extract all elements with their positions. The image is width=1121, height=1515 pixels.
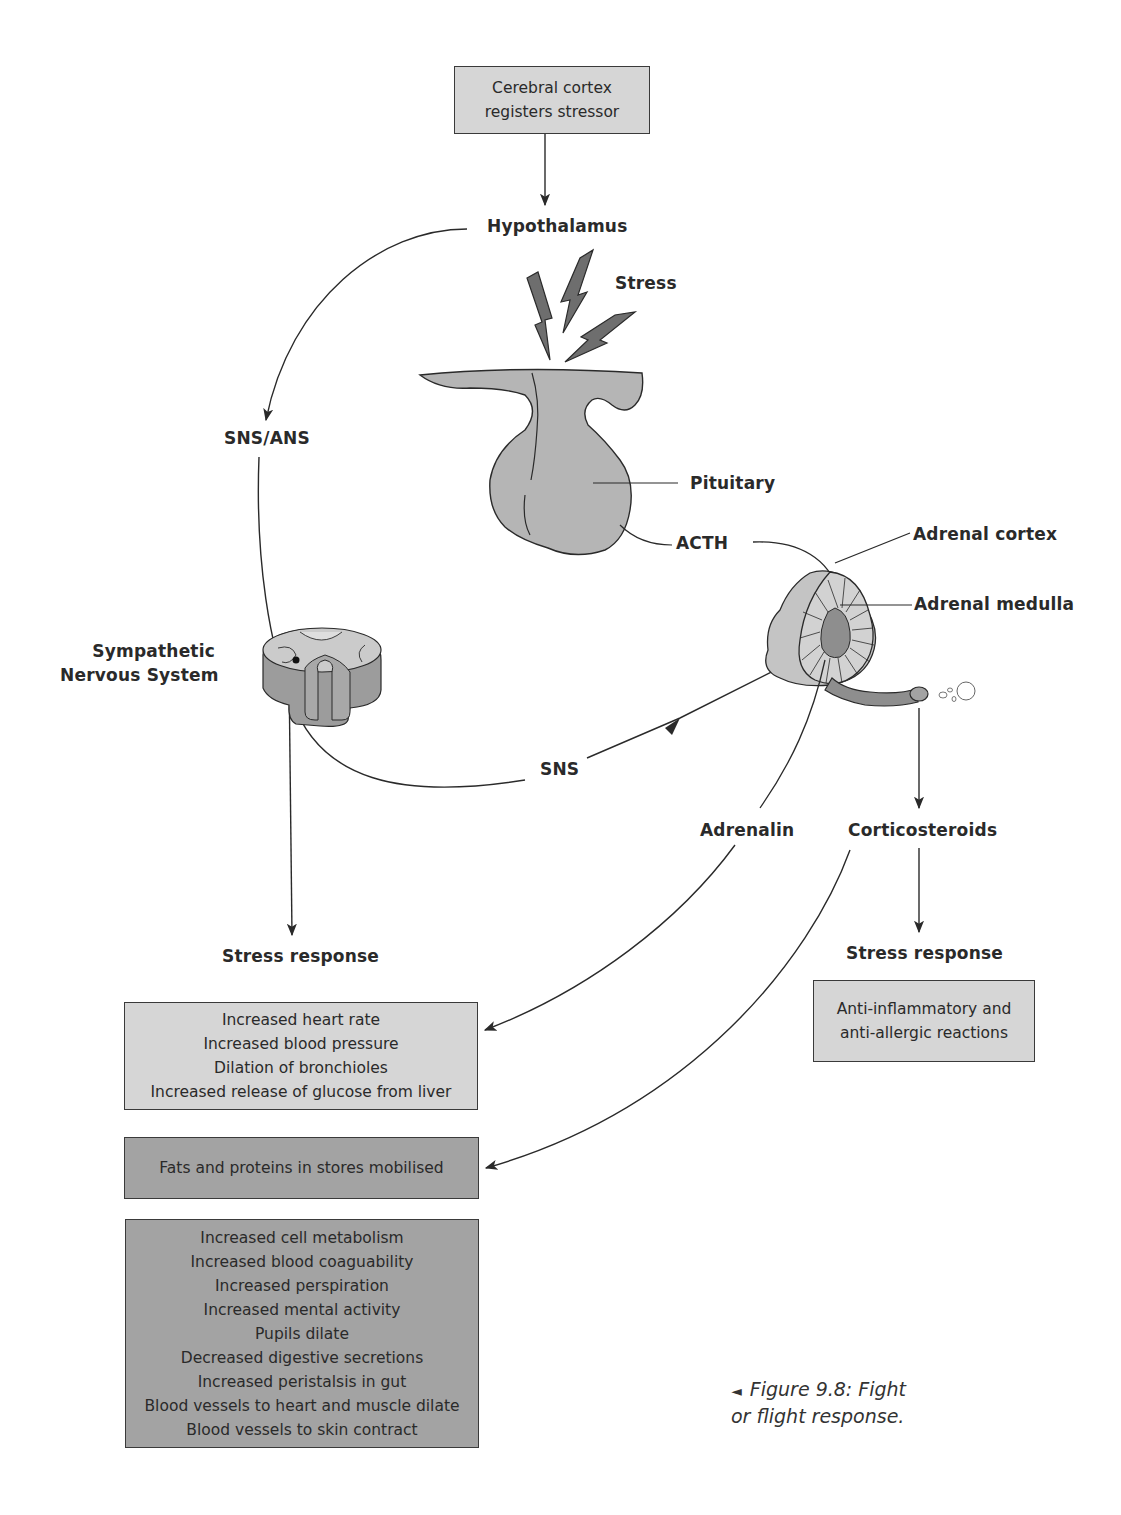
caption-line-2: or flight response.: [731, 1404, 906, 1429]
effect-item: Pupils dilate: [255, 1322, 349, 1346]
effect-item: Increased blood pressure: [203, 1032, 398, 1056]
effect-item: Increased cell metabolism: [200, 1226, 403, 1250]
sympathetic-line-1: Sympathetic: [60, 639, 215, 663]
effect-item: Increased heart rate: [222, 1008, 380, 1032]
caption-marker-icon: ◄: [731, 1383, 742, 1399]
lightning-bolt-icon: [527, 250, 635, 362]
caption-line-1: Figure 9.8: Fight: [750, 1378, 906, 1400]
adrenalin-effects-box: Increased heart rate Increased blood pre…: [124, 1002, 478, 1110]
effect-item: Anti-inflammatory and: [837, 997, 1012, 1021]
effect-item: Increased mental activity: [204, 1298, 401, 1322]
fats-proteins-mobilised-box: Fats and proteins in stores mobilised: [124, 1137, 479, 1199]
arrow-corticosteroids-to-mobilised: [486, 850, 850, 1168]
adrenal-medulla-label: Adrenal medulla: [914, 594, 1074, 614]
arrow-adrenalin-to-effects: [485, 845, 735, 1030]
effect-item: Increased perspiration: [215, 1274, 389, 1298]
sns-label: SNS: [540, 759, 579, 779]
sympathetic-nervous-system-label: Sympathetic Nervous System: [60, 639, 215, 687]
sympathetic-line-2: Nervous System: [60, 663, 215, 687]
cerebral-cortex-box: Cerebral cortex registers stressor: [454, 66, 650, 134]
acth-leader-line: [620, 525, 672, 545]
arrow-spinal-cord-to-stress-response: [289, 670, 292, 935]
line-sns-ans-to-spinal-cord: [258, 457, 525, 787]
effect-item: Fats and proteins in stores mobilised: [159, 1156, 443, 1180]
stress-label: Stress: [615, 273, 677, 293]
effect-item: Blood vessels to skin contract: [186, 1418, 417, 1442]
sns-effects-box: Increased cell metabolism Increased bloo…: [125, 1219, 479, 1448]
adrenal-cortex-leader-line: [835, 533, 910, 563]
pituitary-label: Pituitary: [690, 473, 775, 493]
effect-item: Dilation of bronchioles: [214, 1056, 388, 1080]
stress-response-right-label: Stress response: [846, 943, 1003, 963]
corticosteroid-effects-box: Anti-inflammatory and anti-allergic reac…: [813, 980, 1035, 1062]
adrenal-gland-illustration: [766, 571, 975, 706]
acth-label: ACTH: [676, 533, 728, 553]
sns-ans-label: SNS/ANS: [224, 428, 310, 448]
hypothalamus-label: Hypothalamus: [487, 216, 628, 236]
effect-item: anti-allergic reactions: [840, 1021, 1008, 1045]
effect-item: Decreased digestive secretions: [181, 1346, 424, 1370]
adrenalin-label: Adrenalin: [700, 820, 794, 840]
effect-item: Increased blood coaguability: [191, 1250, 414, 1274]
figure-caption: ◄Figure 9.8: Fight or flight response.: [731, 1377, 906, 1429]
effect-item: Increased peristalsis in gut: [198, 1370, 407, 1394]
adrenal-cortex-label: Adrenal cortex: [913, 524, 1057, 544]
stress-response-left-label: Stress response: [222, 946, 379, 966]
cortex-line-2: registers stressor: [485, 100, 620, 124]
effect-item: Increased release of glucose from liver: [151, 1080, 452, 1104]
effect-item: Blood vessels to heart and muscle dilate: [144, 1394, 459, 1418]
pituitary-gland-illustration: [420, 369, 643, 554]
arrow-hypothalamus-to-sns-ans: [266, 229, 467, 420]
cortex-line-1: Cerebral cortex: [492, 76, 612, 100]
corticosteroids-label: Corticosteroids: [848, 820, 997, 840]
